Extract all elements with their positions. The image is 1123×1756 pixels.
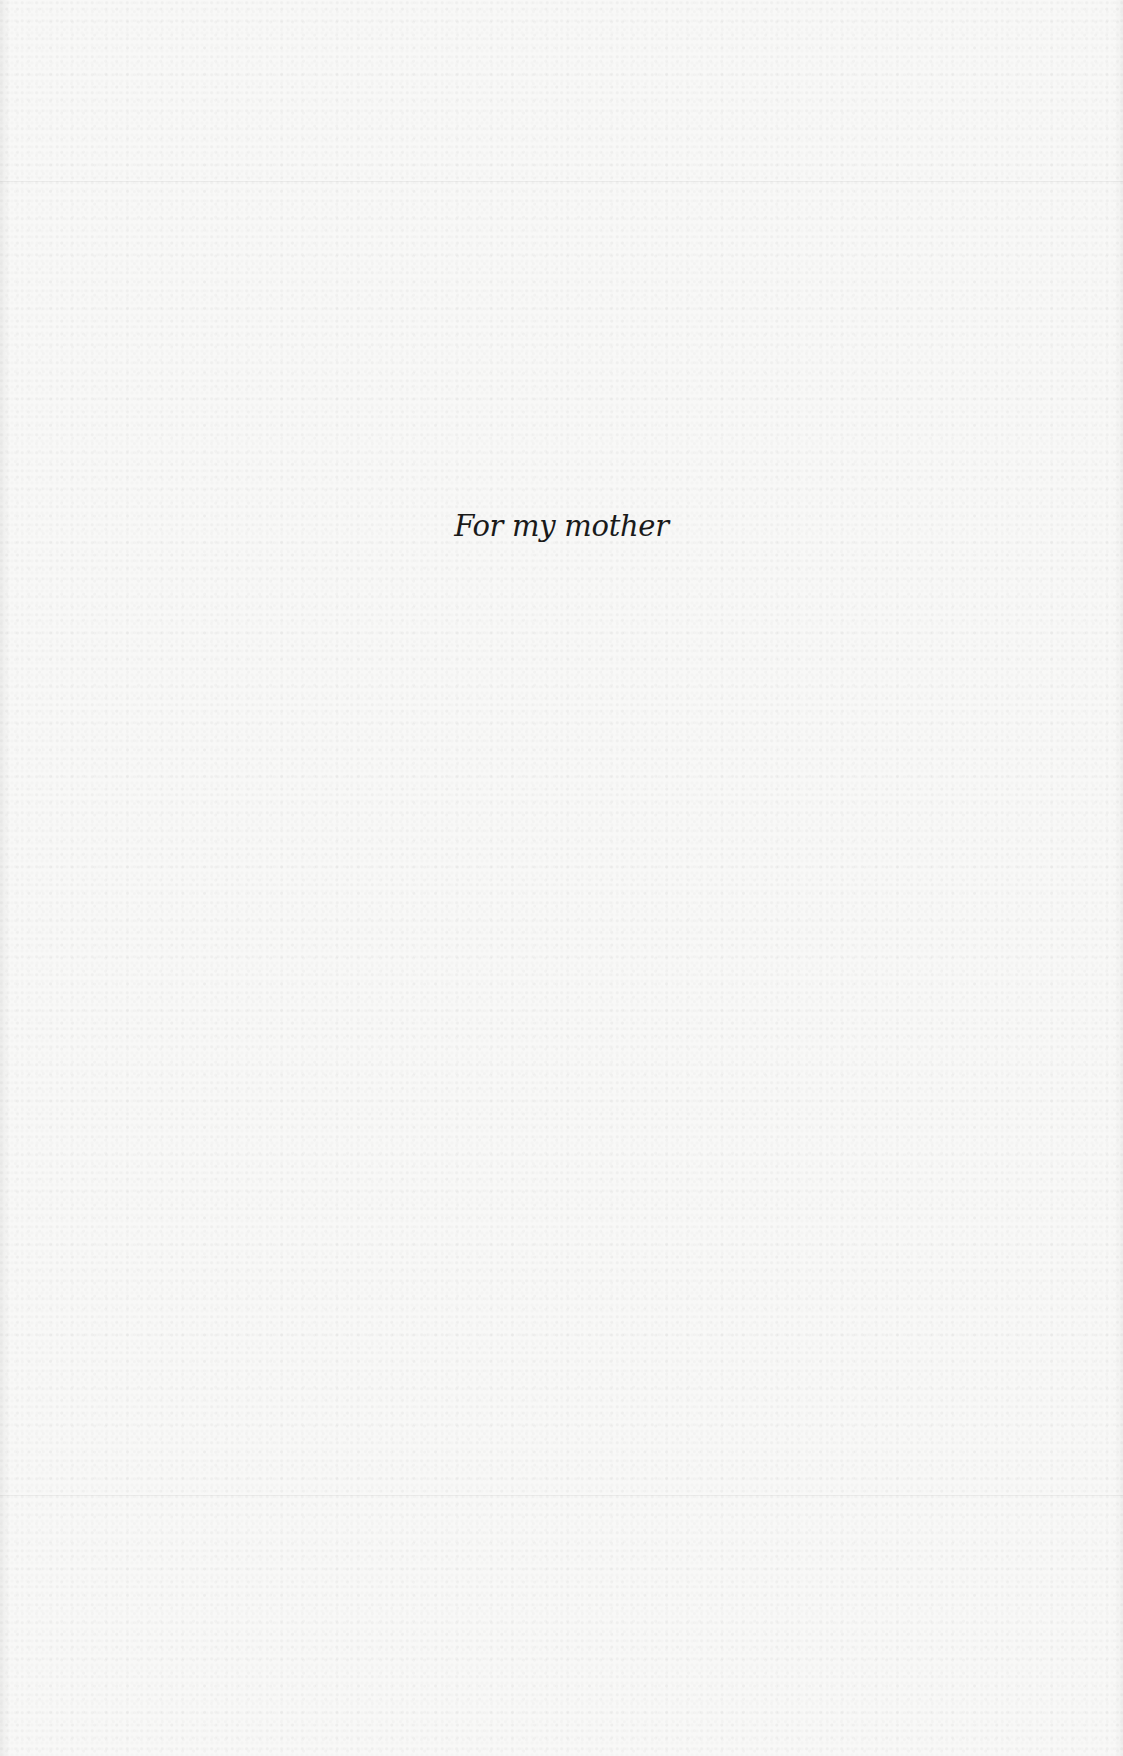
scan-line-bottom — [0, 1495, 1123, 1496]
dedication-text: For my mother — [0, 506, 1123, 546]
book-page: For my mother — [0, 0, 1123, 1756]
page-edge-right — [1115, 0, 1123, 1756]
page-edge-left — [0, 0, 10, 1756]
scan-line-top — [0, 181, 1123, 182]
